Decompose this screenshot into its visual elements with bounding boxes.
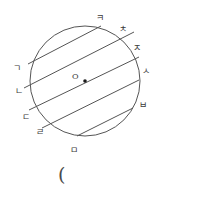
chord-line-4 [42, 80, 139, 128]
label-kieuk: ㅋ [96, 14, 104, 23]
center-label-o: O [72, 73, 79, 81]
chord-line-1 [28, 26, 101, 64]
center-point-dot [83, 79, 87, 83]
label-digeut: ㄷ [22, 113, 30, 122]
label-siot: ㅅ [142, 67, 150, 76]
label-bieup: ㅂ [139, 101, 147, 110]
geometry-figure: Oㅋㅊㅈㅅㅂㅁㄹㄷㄴㄱ( [0, 0, 209, 197]
label-chieut: ㅊ [119, 25, 127, 34]
label-giyeok: ㄱ [13, 64, 21, 73]
label-jieut: ㅈ [133, 44, 141, 53]
chord-line-3 [29, 57, 139, 110]
label-mieum: ㅁ [70, 146, 78, 155]
label-rieul: ㄹ [36, 128, 44, 137]
label-nieun: ㄴ [15, 87, 23, 96]
circle-with-chords [0, 0, 209, 197]
caption-open-paren: ( [58, 165, 65, 184]
chord-line-2 [24, 32, 134, 88]
